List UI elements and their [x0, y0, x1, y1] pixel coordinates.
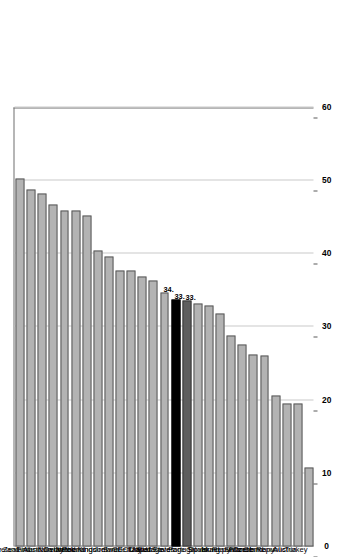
bar: [215, 313, 224, 546]
bar: [60, 210, 69, 546]
axis-tick-label: 0: [324, 542, 329, 550]
axis-tick-30: [313, 337, 317, 338]
bar: [26, 189, 35, 546]
bar: [137, 276, 146, 546]
axis-tick-60: [313, 117, 317, 118]
bar: [148, 280, 157, 546]
bar: [282, 403, 291, 546]
bar: [104, 256, 113, 546]
bar: [226, 335, 235, 546]
axis-tick-label: 50: [322, 176, 331, 184]
bar: [193, 303, 202, 546]
bar: [237, 344, 246, 546]
bar: [171, 299, 180, 546]
bar: [271, 395, 280, 546]
axis-tick-label: 20: [322, 395, 331, 403]
bar: [248, 354, 257, 546]
bar: [71, 210, 80, 546]
axis-tick-40: [313, 263, 317, 264]
bar: [82, 215, 91, 546]
axis-tick-10: [313, 483, 317, 484]
rotated-figure: 0102030405060IcelandNew ZealandFinlandAu…: [0, 0, 358, 557]
bar: [293, 403, 302, 546]
bar: [260, 355, 269, 546]
bar: [304, 467, 313, 546]
bar: [160, 292, 169, 546]
gridline-50: [14, 179, 313, 180]
bar: [204, 305, 213, 546]
axis-tick-label: 10: [322, 469, 331, 477]
axis-tick-label: 60: [322, 103, 331, 111]
axis-tick-label: 40: [322, 249, 331, 257]
bar-value-label: 34.: [163, 285, 173, 292]
bar-value-label: 33.: [185, 293, 195, 300]
bar: [93, 250, 102, 546]
bar: [115, 270, 124, 546]
gridline-60: [14, 106, 313, 107]
bar: [182, 300, 191, 546]
axis-tick-20: [313, 410, 317, 411]
bar: [37, 193, 46, 546]
bar: [15, 178, 24, 546]
axis-tick-50: [313, 190, 317, 191]
gridline-40: [14, 252, 313, 253]
category-label: Turkey: [285, 545, 308, 553]
bar: [48, 204, 57, 546]
axis-tick-label: 30: [322, 322, 331, 330]
chart-screenshot: 0102030405060IcelandNew ZealandFinlandAu…: [0, 0, 358, 557]
bar-value-label: 33.: [174, 292, 184, 299]
bar: [126, 270, 135, 546]
plot-area: [13, 107, 313, 546]
